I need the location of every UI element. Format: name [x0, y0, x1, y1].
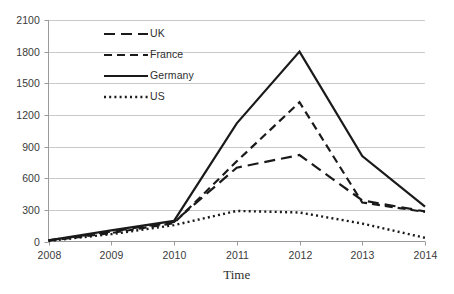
y-axis-tick-label: 2100	[0, 14, 40, 26]
y-axis-tick-label: 1800	[0, 46, 40, 58]
y-axis-tick-label: 1200	[0, 109, 40, 121]
y-axis-tick-label: 900	[0, 141, 40, 153]
y-axis-tick-label: 600	[0, 172, 40, 184]
series-line-uk	[49, 155, 426, 240]
y-axis-tick-label: 1500	[0, 77, 40, 89]
x-axis-tick-label: 2011	[212, 249, 264, 261]
legend-label-france: France	[150, 48, 183, 60]
legend-label-germany: Germany	[150, 69, 194, 81]
x-axis-tick-label: 2010	[149, 249, 201, 261]
x-axis-tick-label: 2008	[24, 249, 76, 261]
series-line-germany	[49, 52, 426, 241]
data-series	[49, 52, 426, 241]
y-axis-tick-label: 0	[0, 236, 40, 248]
x-axis-tick-label: 2012	[275, 249, 327, 261]
legend-label-uk: UK	[150, 27, 165, 39]
y-axis-tickmarks	[45, 21, 49, 243]
x-axis-title: Time	[177, 267, 297, 283]
series-line-us	[49, 211, 426, 241]
legend-label-us: US	[150, 90, 165, 102]
x-axis-tick-label: 2014	[400, 249, 452, 261]
legend-swatches	[104, 34, 148, 97]
line-chart: 03006009001200150018002100 2008200920102…	[0, 0, 454, 294]
x-axis-tick-label: 2009	[86, 249, 138, 261]
x-axis-tick-label: 2013	[337, 249, 389, 261]
y-axis-tick-label: 300	[0, 204, 40, 216]
gridlines	[49, 21, 426, 211]
x-axis-tickmarks	[50, 242, 426, 246]
